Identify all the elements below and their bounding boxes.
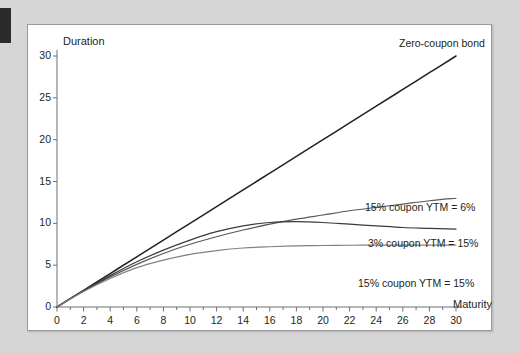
x-tick-label: 10 xyxy=(178,314,202,326)
x-tick-label: 22 xyxy=(338,314,362,326)
curve-3 xyxy=(57,222,456,307)
y-tick-label: 15 xyxy=(27,175,51,187)
curve-label-right-lower: 15% coupon YTM = 15% xyxy=(358,277,474,289)
x-tick-label: 4 xyxy=(98,314,122,326)
y-tick-label: 5 xyxy=(27,258,51,270)
curve-2 xyxy=(57,198,456,307)
x-tick-label: 16 xyxy=(258,314,282,326)
curve-label-top-right: Zero-coupon bond xyxy=(399,37,485,49)
x-tick-label: 8 xyxy=(151,314,175,326)
chart-figure: Duration Maturity 051015202530 024681012… xyxy=(27,24,492,331)
x-tick-label: 0 xyxy=(45,314,69,326)
curve-1 xyxy=(57,56,456,307)
curve-label-right-upper: 15% coupon YTM = 6% xyxy=(365,201,475,213)
curve-lines xyxy=(57,56,456,307)
x-tick-label: 30 xyxy=(444,314,468,326)
x-tick-label: 28 xyxy=(417,314,441,326)
x-tick-label: 24 xyxy=(364,314,388,326)
y-tick-label: 30 xyxy=(27,49,51,61)
y-tick-label: 0 xyxy=(27,300,51,312)
x-tick-label: 14 xyxy=(231,314,255,326)
y-tick-label: 10 xyxy=(27,216,51,228)
x-tick-label: 26 xyxy=(391,314,415,326)
x-tick-label: 6 xyxy=(125,314,149,326)
curve-label-right-middle: 3% coupon YTM = 15% xyxy=(368,237,478,249)
x-tick-label: 20 xyxy=(311,314,335,326)
y-axis-title: Duration xyxy=(63,35,105,47)
x-tick-label: 2 xyxy=(72,314,96,326)
x-axis-title: Maturity xyxy=(453,298,492,310)
x-tick-label: 18 xyxy=(284,314,308,326)
x-tick-label: 12 xyxy=(205,314,229,326)
y-tick-label: 25 xyxy=(27,91,51,103)
accent-bar xyxy=(0,8,11,43)
y-tick-label: 20 xyxy=(27,133,51,145)
